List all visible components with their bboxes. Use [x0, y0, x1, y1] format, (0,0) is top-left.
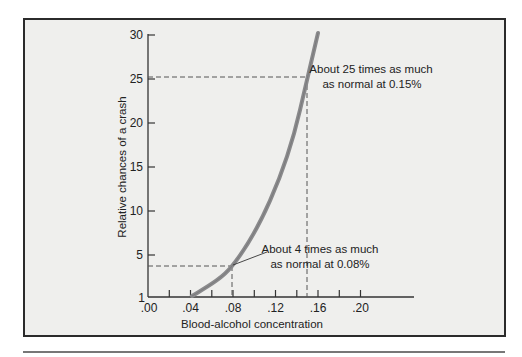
- x-tick-000: .00: [141, 301, 158, 315]
- y-tick-10: 10: [130, 204, 144, 218]
- x-tick-016: .16: [310, 301, 327, 315]
- x-axis-title: Blood-alcohol concentration: [181, 318, 323, 330]
- x-tick-004: .04: [182, 301, 199, 315]
- anno-015-line2: as normal at 0.15%: [322, 78, 421, 90]
- chart-svg: 30 25 20 15 10 5 1 .00 .04 .08 .12 .16 .…: [0, 0, 522, 357]
- anno-015-line1: About 25 times as much: [309, 63, 432, 75]
- anno-008-line2: as normal at 0.08%: [270, 258, 369, 270]
- y-tick-5: 5: [136, 248, 143, 262]
- y-tick-labels: 30 25 20 15 10 5 1: [130, 28, 146, 305]
- y-ticks: [148, 35, 155, 255]
- anno-008-line1: About 4 times as much: [262, 243, 379, 255]
- y-tick-15: 15: [130, 160, 144, 174]
- y-tick-20: 20: [130, 116, 144, 130]
- x-tick-020: .20: [352, 301, 369, 315]
- x-tick-008: .08: [225, 301, 242, 315]
- y-tick-25: 25: [130, 72, 144, 86]
- y-tick-30: 30: [130, 28, 144, 42]
- x-tick-labels: .00 .04 .08 .12 .16 .20: [141, 301, 370, 315]
- y-axis-title: Relative chances of a crash: [116, 96, 128, 237]
- x-tick-012: .12: [267, 301, 284, 315]
